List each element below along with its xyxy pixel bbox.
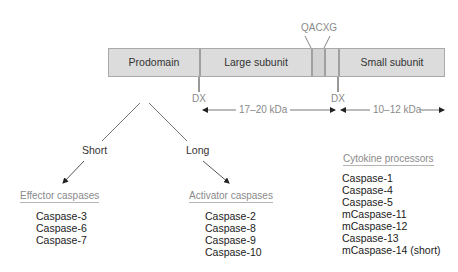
list-item: Caspase-6 <box>36 222 87 234</box>
cleavage-site-1: DX <box>192 93 206 104</box>
activator-caspases-list: Caspase-2 Caspase-8 Caspase-9 Caspase-10 <box>205 210 262 258</box>
activator-caspases-heading: Activator caspases <box>189 190 273 203</box>
cleavage-site-2: DX <box>331 93 345 104</box>
list-item: Caspase-10 <box>205 246 262 258</box>
list-item: Caspase-7 <box>36 234 87 246</box>
list-item: mCaspase-14 (short) <box>342 244 441 256</box>
motif-segment <box>313 49 324 76</box>
list-item: Caspase-1 <box>342 172 441 184</box>
cytokine-processors-heading: Cytokine processors <box>343 153 434 166</box>
list-item: Caspase-4 <box>342 184 441 196</box>
list-item: Caspase-2 <box>205 210 262 222</box>
domain-bar: Prodomain Large subunit Small subunit <box>108 48 445 77</box>
long-branch-label: Long <box>186 144 209 156</box>
effector-caspases-list: Caspase-3 Caspase-6 Caspase-7 <box>36 210 87 246</box>
large-subunit-label: Large subunit <box>201 49 311 76</box>
cytokine-processors-list: Caspase-1 Caspase-4 Caspase-5 mCaspase-1… <box>342 172 441 256</box>
list-item: Caspase-5 <box>342 196 441 208</box>
list-item: Caspase-3 <box>36 210 87 222</box>
list-item: mCaspase-11 <box>342 208 441 220</box>
linker-segment <box>326 49 338 76</box>
effector-caspases-heading: Effector caspases <box>20 190 99 203</box>
small-subunit-label: Small subunit <box>340 49 444 76</box>
large-subunit-size: 17–20 kDa <box>239 104 287 115</box>
prodomain-label: Prodomain <box>109 49 199 76</box>
short-branch-label: Short <box>82 144 107 156</box>
list-item: Caspase-8 <box>205 222 262 234</box>
motif-label: QACXG <box>301 22 337 33</box>
small-subunit-size: 10–12 kDa <box>373 104 421 115</box>
list-item: Caspase-9 <box>205 234 262 246</box>
list-item: mCaspase-12 <box>342 220 441 232</box>
list-item: Caspase-13 <box>342 232 441 244</box>
